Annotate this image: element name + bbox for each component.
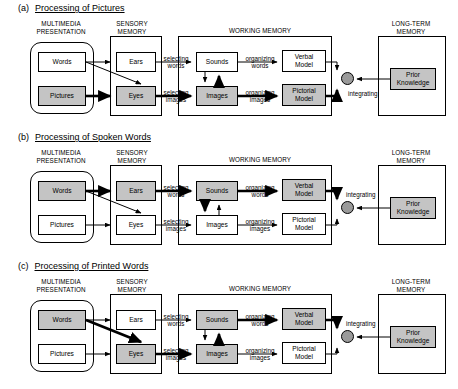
node-images-a: Images <box>196 86 238 106</box>
proc-label-organizing-words-b: organizing words <box>239 184 281 199</box>
proc-label-selecting-images-c: selecting images <box>157 347 195 362</box>
node-pictures-b: Pictures <box>38 215 86 235</box>
node-images-c: Images <box>196 344 238 364</box>
proc-label-integrating-b: integrating <box>346 191 394 198</box>
proc-label-organizing-images-a: organizing images <box>239 89 281 104</box>
region-label-working-memory-c: WORKING MEMORY <box>200 285 320 293</box>
node-sounds-a: Sounds <box>196 52 238 72</box>
proc-label-organizing-words-a: organizing words <box>239 55 281 70</box>
proc-label-organizing-images-b: organizing images <box>239 218 281 233</box>
node-pictorial-model-a: Pictorial Model <box>282 84 326 106</box>
region-label-sensory-memory-a: SENSORY MEMORY <box>104 20 160 35</box>
region-label-sensory-memory-b: SENSORY MEMORY <box>104 149 160 164</box>
node-sounds-b: Sounds <box>196 181 238 201</box>
region-label-sensory-memory-c: SENSORY MEMORY <box>104 278 160 293</box>
panel-c-letter: (c) <box>18 261 29 271</box>
panel-a-letter: (a) <box>18 3 29 13</box>
region-label-working-memory-a: WORKING MEMORY <box>200 27 320 35</box>
node-words-c: Words <box>38 310 86 330</box>
panel-c-heading: (c)Processing of Printed Words <box>18 261 148 271</box>
node-words-b: Words <box>38 181 86 201</box>
region-label-working-memory-b: WORKING MEMORY <box>200 156 320 164</box>
node-eyes-b: Eyes <box>116 215 156 235</box>
node-images-b: Images <box>196 215 238 235</box>
node-eyes-a: Eyes <box>116 86 156 106</box>
region-label-multimedia-presentation-c: MULTIMEDIA PRESENTATION <box>22 278 100 293</box>
node-verbal-model-b: Verbal Model <box>282 179 326 201</box>
node-pictorial-model-c: Pictorial Model <box>282 342 326 364</box>
panel-a: (a)Processing of Pictures MULTIMEDIA PRE… <box>0 0 458 129</box>
proc-label-organizing-images-c: organizing images <box>239 347 281 362</box>
proc-label-selecting-images-a: selecting images <box>157 89 195 104</box>
region-label-long-term-memory-c: LONG-TERM MEMORY <box>378 278 444 293</box>
panel-b-heading: (b)Processing of Spoken Words <box>18 132 151 142</box>
panel-b: (b)Processing of Spoken Words MULTIMEDIA… <box>0 129 458 258</box>
node-eyes-c: Eyes <box>116 344 156 364</box>
proc-label-selecting-words-b: selecting words <box>157 184 195 199</box>
region-label-multimedia-presentation-b: MULTIMEDIA PRESENTATION <box>22 149 100 164</box>
node-ears-c: Ears <box>116 310 156 330</box>
proc-label-selecting-words-c: selecting words <box>157 313 195 328</box>
multimedia-learning-figure: (a)Processing of Pictures MULTIMEDIA PRE… <box>0 0 458 389</box>
integrating-node-b <box>341 201 354 214</box>
panel-a-heading: (a)Processing of Pictures <box>18 3 125 13</box>
proc-label-selecting-words-a: selecting words <box>157 55 195 70</box>
node-words-a: Words <box>38 52 86 72</box>
node-pictures-a: Pictures <box>38 86 86 106</box>
node-ears-b: Ears <box>116 181 156 201</box>
region-label-long-term-memory-b: LONG-TERM MEMORY <box>378 149 444 164</box>
node-verbal-model-c: Verbal Model <box>282 308 326 330</box>
panel-b-title: Processing of Spoken Words <box>35 132 151 142</box>
node-prior-knowledge-b: Prior Knowledge <box>390 197 436 219</box>
region-label-long-term-memory-a: LONG-TERM MEMORY <box>378 20 444 35</box>
panel-a-title: Processing of Pictures <box>35 3 125 13</box>
node-sounds-c: Sounds <box>196 310 238 330</box>
node-prior-knowledge-c: Prior Knowledge <box>390 326 436 348</box>
panel-c-title: Processing of Printed Words <box>35 261 149 271</box>
region-label-multimedia-presentation-a: MULTIMEDIA PRESENTATION <box>22 20 100 35</box>
proc-label-organizing-words-c: organizing words <box>239 313 281 328</box>
proc-label-selecting-images-b: selecting images <box>157 218 195 233</box>
node-pictorial-model-b: Pictorial Model <box>282 213 326 235</box>
panel-c: (c)Processing of Printed Words MULTIMEDI… <box>0 258 458 387</box>
integrating-node-a <box>341 72 354 85</box>
proc-label-integrating-c: integrating <box>346 320 394 327</box>
node-ears-a: Ears <box>116 52 156 72</box>
node-pictures-c: Pictures <box>38 344 86 364</box>
integrating-node-c <box>341 330 354 343</box>
node-prior-knowledge-a: Prior Knowledge <box>390 68 436 90</box>
panel-b-letter: (b) <box>18 132 29 142</box>
proc-label-integrating-a: integrating <box>348 90 396 97</box>
node-verbal-model-a: Verbal Model <box>282 50 326 72</box>
